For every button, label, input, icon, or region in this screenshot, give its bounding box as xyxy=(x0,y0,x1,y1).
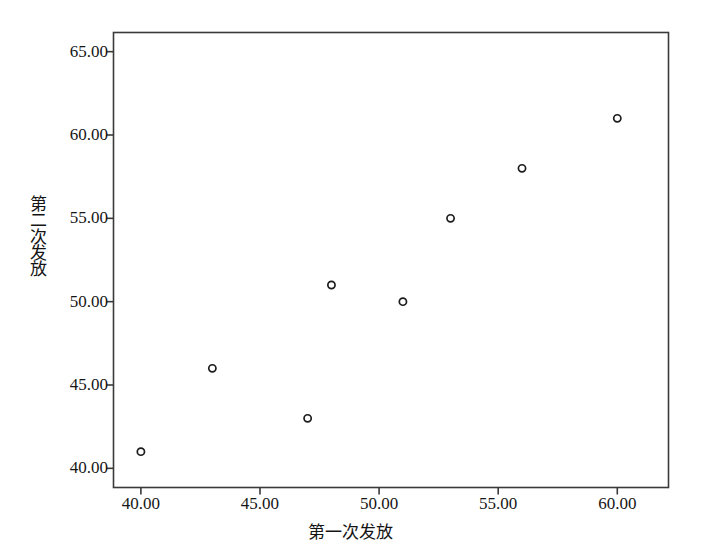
x-axis-title: 第一次发放 xyxy=(0,518,701,543)
x-tick-label: 60.00 xyxy=(577,494,657,514)
y-axis-title-char: 放 xyxy=(27,261,49,277)
chart-screenshot: 40.0045.0050.0055.0060.0065.00 40.0045.0… xyxy=(0,0,701,559)
x-tick-label: 55.00 xyxy=(458,494,538,514)
plot-frame xyxy=(114,33,669,488)
y-tick-label: 40.00 xyxy=(38,458,108,478)
x-tick-label: 45.00 xyxy=(220,494,300,514)
y-axis-title: 第二次发放 xyxy=(27,196,49,278)
x-tick-label: 40.00 xyxy=(101,494,181,514)
y-tick-label: 45.00 xyxy=(38,375,108,395)
x-tick-label: 50.00 xyxy=(339,494,419,514)
y-tick-label: 60.00 xyxy=(38,125,108,145)
y-tick-label: 65.00 xyxy=(38,42,108,62)
scatter-plot-figure: 40.0045.0050.0055.0060.0065.00 40.0045.0… xyxy=(0,0,701,559)
y-tick-label: 50.00 xyxy=(38,292,108,312)
y-axis-tick-labels: 40.0045.0050.0055.0060.0065.00 xyxy=(0,0,108,559)
